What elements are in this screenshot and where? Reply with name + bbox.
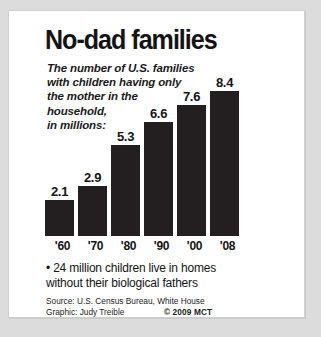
credits-block: Source: U.S. Census Bureau, White House … (46, 296, 278, 317)
bar-1990 (144, 122, 173, 236)
bar-chart: 2.1 2.9 5.3 6.6 (45, 71, 245, 256)
bar-value-label: 7.6 (174, 90, 209, 103)
copyright-notice: © 2009 MCT (164, 307, 212, 318)
bar-value-label: 5.3 (108, 130, 143, 143)
source-line: Source: U.S. Census Bureau, White House (46, 296, 278, 307)
x-tick-label: '90 (144, 239, 179, 253)
bar-column: 2.1 (45, 76, 74, 236)
footnote-line: • 24 million children live in homes (46, 261, 276, 276)
bar-2000 (177, 105, 206, 236)
chart-plot-area: 2.1 2.9 5.3 6.6 (45, 76, 241, 236)
bar-column: 7.6 (177, 76, 206, 236)
bar-value-label: 2.1 (42, 185, 77, 198)
infographic-card: No-dad families The number of U.S. famil… (8, 10, 305, 318)
x-axis-tick-labels: '60 '70 '80 '90 '00 '08 (45, 236, 241, 256)
bar-1970 (78, 186, 107, 236)
footnote-bullet: • 24 million children live in homes with… (46, 261, 276, 290)
bar-column: 6.6 (144, 76, 173, 236)
bar-column: 5.3 (111, 76, 140, 236)
x-tick-label: '00 (177, 239, 212, 253)
x-tick-label: '60 (45, 239, 80, 253)
x-tick-label: '08 (210, 239, 245, 253)
bar-2008 (210, 91, 239, 236)
bar-column: 8.4 (210, 76, 239, 236)
infographic-root: No-dad families The number of U.S. famil… (0, 0, 321, 337)
bar-column: 2.9 (78, 76, 107, 236)
bar-1980 (111, 145, 140, 236)
bar-1960 (45, 200, 74, 236)
graphic-credit-line: Graphic: Judy Treible © 2009 MCT (46, 307, 278, 318)
bar-value-label: 6.6 (141, 107, 176, 120)
bar-value-label: 8.4 (207, 76, 242, 89)
page-title: No-dad families (45, 25, 217, 55)
x-tick-label: '70 (78, 239, 113, 253)
bar-value-label: 2.9 (75, 171, 110, 184)
footnote-line: without their biological fathers (46, 276, 276, 291)
graphic-author: Graphic: Judy Treible (46, 307, 124, 317)
x-tick-label: '80 (111, 239, 146, 253)
